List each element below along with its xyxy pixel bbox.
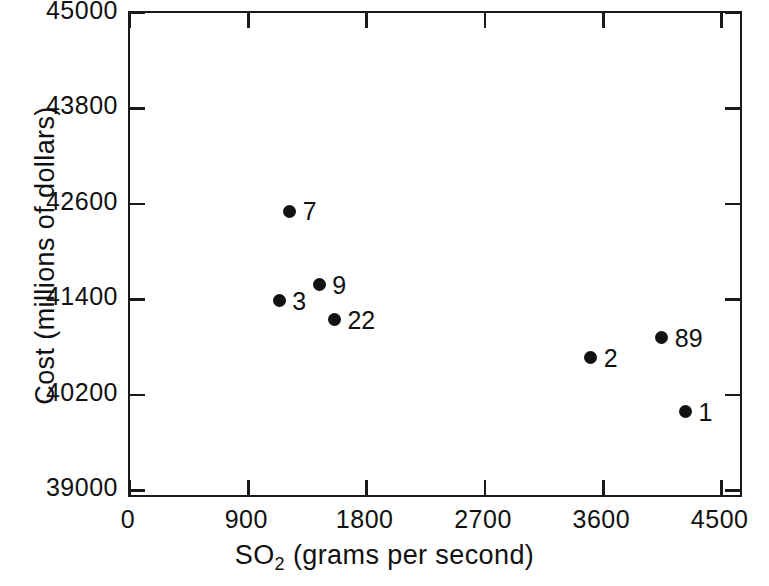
y-axis-tick [130, 298, 145, 301]
data-point-label: 1 [698, 400, 712, 425]
data-point-label: 9 [332, 273, 346, 298]
y-axis-tick [725, 489, 740, 492]
x-axis-tick [247, 480, 250, 495]
data-point [328, 313, 341, 326]
y-axis-tick [130, 107, 145, 110]
y-axis-tick [725, 203, 740, 206]
x-axis-title-subscript: 2 [275, 554, 285, 574]
x-axis-tick [602, 480, 605, 495]
y-axis-tick [130, 203, 145, 206]
y-axis-tick [725, 107, 740, 110]
x-axis-tick [129, 480, 132, 495]
data-point-label: 3 [292, 289, 306, 314]
x-axis-title-pre: SO [235, 540, 275, 570]
x-axis-tick [720, 13, 723, 28]
y-axis-tick [130, 394, 145, 397]
data-point-label: 89 [675, 326, 703, 351]
x-axis-tick [129, 13, 132, 28]
x-axis-tick [365, 480, 368, 495]
x-axis-tick-label: 0 [121, 507, 135, 532]
y-axis-tick [130, 12, 145, 15]
x-axis-tick-label: 900 [225, 507, 268, 532]
y-axis-tick [130, 489, 145, 492]
data-point-label: 2 [604, 346, 618, 371]
x-axis-tick-label: 2700 [454, 507, 512, 532]
x-axis-tick [720, 480, 723, 495]
data-point-label: 22 [347, 308, 375, 333]
chart-page: 390004020041400426004380045000 090018002… [0, 0, 769, 586]
x-axis-title: SO2 (grams per second) [0, 540, 769, 571]
x-axis-tick-label: 1800 [336, 507, 394, 532]
x-axis-tick-label: 4500 [691, 507, 749, 532]
data-point [313, 278, 326, 291]
x-axis-tick [484, 480, 487, 495]
data-point [273, 294, 286, 307]
x-axis-tick-label: 3600 [573, 507, 631, 532]
x-axis-tick [365, 13, 368, 28]
y-axis-tick [725, 394, 740, 397]
data-point-label: 7 [303, 199, 317, 224]
x-axis-tick [602, 13, 605, 28]
x-axis-tick [247, 13, 250, 28]
plot-area [128, 11, 742, 497]
y-axis-tick [725, 12, 740, 15]
x-axis-title-post: (grams per second) [285, 540, 534, 570]
y-axis-tick [725, 298, 740, 301]
y-axis-title: Cost (millions of dollars) [30, 6, 61, 506]
x-axis-tick [484, 13, 487, 28]
